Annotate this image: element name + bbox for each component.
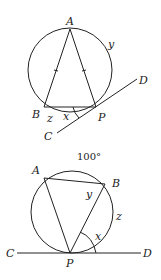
side-AP <box>70 29 96 107</box>
tick-mark-AB <box>54 70 58 71</box>
figure-1: A y B z x P C D <box>28 15 148 143</box>
label-P: P <box>97 111 106 124</box>
side-AB <box>44 29 70 107</box>
label-z: z <box>115 210 122 223</box>
geometry-diagram: A y B z x P C D 100° A B y z x P C D <box>0 0 161 280</box>
tangent-CD <box>57 79 137 133</box>
label-y: y <box>85 188 93 201</box>
angle-arc-x <box>73 107 79 118</box>
label-A: A <box>65 15 74 28</box>
label-D: D <box>138 74 148 87</box>
label-x: x <box>63 110 70 123</box>
label-P: P <box>65 257 74 270</box>
label-A: A <box>31 164 40 177</box>
label-z: z <box>46 112 53 125</box>
tick-mark-AP <box>82 70 86 71</box>
label-x: x <box>95 230 102 243</box>
label-y: y <box>107 38 115 51</box>
figure-2: 100° A B y z x P C D <box>6 151 152 270</box>
label-C: C <box>44 130 53 143</box>
label-B: B <box>111 177 120 190</box>
label-B: B <box>31 108 40 121</box>
circle-1 <box>28 28 112 112</box>
side-AP <box>44 178 70 253</box>
label-C: C <box>6 247 15 260</box>
label-arc-100: 100° <box>77 151 101 162</box>
label-D: D <box>142 247 152 260</box>
